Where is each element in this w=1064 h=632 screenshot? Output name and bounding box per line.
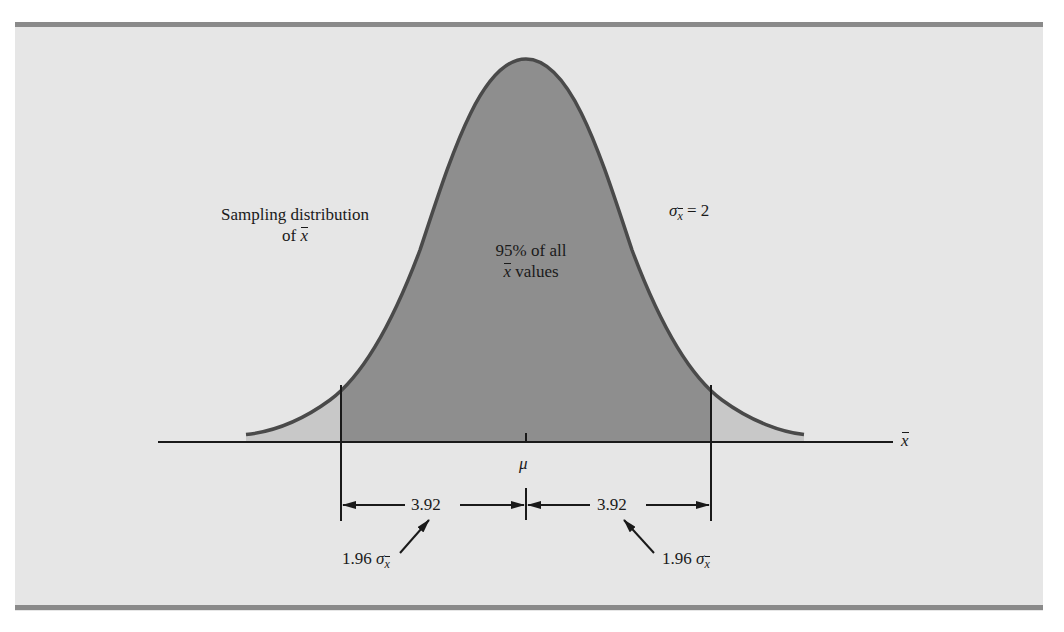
center-label-line1: 95% of all: [456, 240, 606, 261]
sampling-label-prefix: of: [282, 226, 300, 245]
center-label-line2: x values: [456, 261, 606, 282]
normal-curve-figure: [0, 0, 1064, 632]
right-annotation-pointer: [624, 520, 654, 553]
xbar-subscript: x: [677, 206, 682, 227]
xbar-subscript: x: [704, 554, 709, 575]
sampling-label-line2: of x: [190, 225, 400, 246]
center-label-suffix: values: [511, 262, 559, 281]
left-annotation-label: 1.96 σx: [342, 548, 390, 575]
sigma-label: σx = 2: [669, 200, 709, 227]
coef: 1.96: [342, 549, 372, 568]
sigma-value: = 2: [687, 201, 709, 220]
left-interval-label: 3.92: [411, 494, 441, 515]
coef: 1.96: [662, 549, 692, 568]
right-annotation-label: 1.96 σx: [662, 548, 710, 575]
sampling-label-line1: Sampling distribution: [190, 204, 400, 225]
xbar-symbol: x: [901, 430, 909, 451]
right-interval-label: 3.92: [597, 494, 627, 515]
left-annotation-pointer: [400, 520, 429, 553]
xbar-symbol: x: [300, 225, 308, 246]
mean-label: μ: [519, 453, 528, 474]
x-axis-label: x: [901, 430, 909, 451]
center-95-label: 95% of all x values: [456, 240, 606, 282]
xbar-subscript: x: [384, 554, 389, 575]
sampling-distribution-label: Sampling distribution of x: [190, 204, 400, 246]
xbar-symbol: x: [503, 261, 511, 282]
